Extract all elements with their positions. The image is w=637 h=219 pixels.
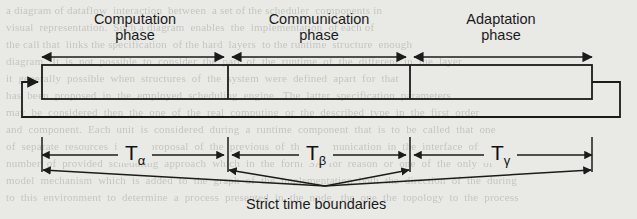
- duration-symbol-t-beta: T: [306, 141, 319, 164]
- phase-timeline-figure: a diagram of dataflow interaction betwee…: [0, 0, 637, 219]
- duration-label-t-gamma: Tγ: [484, 142, 517, 163]
- phase-label-computation: Computation phase: [62, 11, 208, 43]
- phase-label-communication-line2: phase: [244, 27, 394, 43]
- phase-label-adaptation: Adaptation phase: [426, 11, 576, 43]
- phase-label-adaptation-line2: phase: [426, 27, 576, 43]
- duration-subscript-gamma: γ: [504, 153, 511, 168]
- duration-label-t-alpha: Tα: [118, 142, 152, 163]
- phase-label-adaptation-line1: Adaptation: [426, 11, 576, 27]
- phase-label-computation-line2: phase: [62, 27, 208, 43]
- phase-label-computation-line1: Computation: [62, 11, 208, 27]
- pipeline-box-outline: [42, 65, 592, 99]
- phase-label-communication-line1: Communication: [244, 11, 394, 27]
- duration-label-t-beta: Tβ: [299, 142, 333, 163]
- callout-to-boundary-0: [43, 170, 325, 186]
- duration-subscript-beta: β: [319, 153, 326, 168]
- pipeline-box: [42, 65, 592, 99]
- phase-label-communication: Communication phase: [244, 11, 394, 43]
- duration-symbol-t-gamma: T: [491, 141, 504, 164]
- strict-time-boundaries-caption: Strict time boundaries: [246, 196, 386, 212]
- duration-symbol-t-alpha: T: [125, 141, 138, 164]
- duration-subscript-alpha: α: [138, 153, 146, 168]
- boundary-callout-arrows: [43, 170, 591, 186]
